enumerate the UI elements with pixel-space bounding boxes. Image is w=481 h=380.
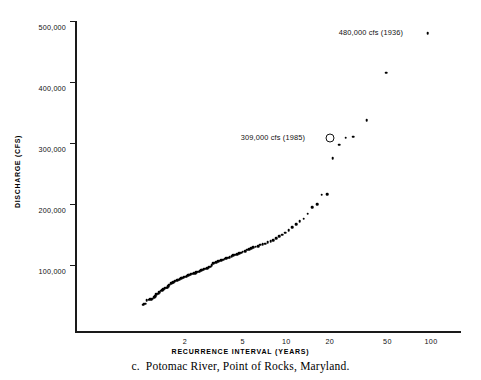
y-axis-tick-label-text: 300,000 <box>39 145 66 154</box>
data-point <box>248 248 251 251</box>
y-axis-tick-label-text: 400,000 <box>39 84 66 93</box>
data-point <box>212 262 215 265</box>
annotation-peak-1985: 309,000 cfs (1985) <box>241 133 305 142</box>
data-point <box>177 278 180 281</box>
data-point <box>338 144 341 147</box>
data-point <box>188 273 191 276</box>
data-point <box>281 233 284 236</box>
data-point <box>213 261 216 264</box>
data-point <box>175 280 178 283</box>
data-point <box>181 277 184 280</box>
data-point <box>252 246 255 249</box>
data-point <box>146 299 149 302</box>
y-axis-tick-label: 400,000 <box>0 77 66 87</box>
data-point <box>159 289 162 292</box>
data-point <box>246 248 249 251</box>
data-point <box>234 253 237 256</box>
data-point <box>254 245 257 248</box>
data-point <box>166 286 169 289</box>
data-point <box>269 240 272 243</box>
data-point <box>176 279 179 282</box>
data-point <box>157 292 160 295</box>
data-point <box>155 293 158 296</box>
data-point <box>185 275 188 278</box>
data-point <box>238 252 241 255</box>
y-axis-tick <box>70 204 75 205</box>
data-point <box>352 136 355 139</box>
data-point <box>232 254 235 257</box>
data-point <box>240 252 243 255</box>
y-axis-title: DISCHARGE (CFS) <box>14 117 21 227</box>
data-point <box>218 259 221 262</box>
data-point <box>203 268 206 271</box>
data-point <box>204 267 207 270</box>
data-point <box>209 266 212 269</box>
data-point <box>222 258 225 261</box>
data-point <box>229 256 232 259</box>
data-point <box>242 250 245 253</box>
figure-caption: c.Potomac River, Point of Rocks, Marylan… <box>0 360 481 372</box>
data-point <box>189 273 192 276</box>
data-point <box>291 226 294 229</box>
y-axis-tick <box>70 21 75 22</box>
y-axis-tick-label-text: 200,000 <box>39 206 66 215</box>
y-axis-tick-label-text: 500,000 <box>39 23 66 32</box>
data-point <box>316 203 319 206</box>
data-point <box>194 272 197 275</box>
data-point <box>220 259 223 262</box>
data-point <box>261 243 264 246</box>
data-point <box>144 302 147 305</box>
data-point <box>275 237 278 240</box>
data-point <box>365 119 368 122</box>
data-point <box>173 280 176 283</box>
x-axis-tick-label: 10 <box>282 337 291 346</box>
y-axis-line <box>75 21 77 332</box>
data-point <box>298 220 301 223</box>
data-point <box>307 212 310 215</box>
y-axis-tick-label-text: 100,000 <box>39 267 66 276</box>
data-point <box>210 264 213 267</box>
data-point <box>165 287 168 290</box>
data-point <box>295 223 298 226</box>
highlighted-point-marker <box>325 133 334 142</box>
data-point <box>201 269 204 272</box>
data-point <box>225 257 228 260</box>
data-point <box>171 281 174 284</box>
x-axis-tick-label: 100 <box>425 337 438 346</box>
data-point <box>257 245 260 248</box>
data-point <box>426 32 429 35</box>
data-point <box>272 239 275 242</box>
y-axis-tick-label: 500,000 <box>0 16 66 26</box>
data-point <box>320 194 323 197</box>
data-point <box>200 269 203 272</box>
data-point <box>170 282 173 285</box>
data-point <box>230 255 233 258</box>
y-axis-tick <box>70 82 75 83</box>
data-point <box>141 303 144 306</box>
x-axis-tick-label: 20 <box>325 337 334 346</box>
caption-text: Potomac River, Point of Rocks, Maryland. <box>146 360 350 372</box>
data-point <box>198 270 201 273</box>
data-point <box>168 283 171 286</box>
data-point <box>311 206 314 209</box>
data-point <box>152 297 155 300</box>
x-axis-title: RECURRENCE INTERVAL (YEARS) <box>0 348 481 355</box>
data-point <box>302 217 305 220</box>
data-point <box>154 295 157 298</box>
x-axis-line <box>75 331 461 333</box>
data-point <box>163 287 166 290</box>
x-axis-tick-label: 2 <box>183 337 187 346</box>
data-point <box>215 261 218 264</box>
data-point <box>161 289 164 292</box>
data-point <box>153 296 156 299</box>
scatter-points <box>0 0 481 380</box>
y-axis-tick <box>70 143 75 144</box>
data-point <box>167 285 170 288</box>
data-point <box>259 244 262 247</box>
data-point <box>267 241 270 244</box>
data-point <box>151 298 154 301</box>
data-point <box>250 247 253 250</box>
data-point <box>149 298 152 301</box>
data-point <box>187 274 190 277</box>
data-point <box>143 303 146 306</box>
